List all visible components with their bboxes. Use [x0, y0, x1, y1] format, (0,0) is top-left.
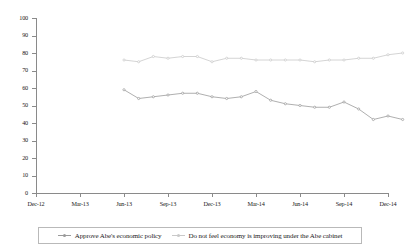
- data-point: [182, 92, 184, 94]
- data-point: [123, 89, 125, 91]
- series-2: [123, 52, 404, 63]
- y-tick-label: 100: [2, 15, 28, 21]
- series-line: [124, 90, 403, 120]
- data-point: [402, 52, 404, 54]
- data-point: [343, 101, 345, 103]
- data-point: [226, 57, 228, 59]
- x-tick-mark: [388, 193, 389, 197]
- legend-label-not-improving: Do not feel economy is improving under t…: [189, 232, 343, 240]
- data-point: [314, 61, 316, 63]
- y-tick-label: 70: [2, 67, 28, 73]
- data-point: [372, 118, 374, 120]
- data-point: [299, 104, 301, 106]
- x-tick-label: Dec-12: [14, 200, 58, 207]
- series-1: [123, 89, 404, 121]
- data-point: [182, 55, 184, 57]
- legend-item-not-improving: Do not feel economy is improving under t…: [172, 232, 343, 240]
- data-point: [270, 59, 272, 61]
- data-point: [240, 96, 242, 98]
- chart-legend: Approve Abe's economic policy Do not fee…: [38, 227, 362, 244]
- data-point: [226, 97, 228, 99]
- data-point: [138, 61, 140, 63]
- data-point: [240, 57, 242, 59]
- data-point: [255, 59, 257, 61]
- x-tick-label: Sep-14: [322, 200, 366, 207]
- y-tick-label: 50: [2, 102, 28, 108]
- x-tick-label: Dec-14: [366, 200, 409, 207]
- data-point: [284, 103, 286, 105]
- data-point: [152, 55, 154, 57]
- legend-swatch-not-improving: [172, 235, 185, 236]
- legend-swatch-approve: [58, 235, 71, 236]
- y-tick-label: 0: [2, 190, 28, 196]
- y-tick-label: 10: [2, 172, 28, 178]
- data-point: [328, 106, 330, 108]
- x-tick-label: Mar-13: [58, 200, 102, 207]
- data-point: [299, 59, 301, 61]
- data-point: [402, 118, 404, 120]
- data-point: [270, 99, 272, 101]
- data-point: [211, 96, 213, 98]
- data-point: [167, 57, 169, 59]
- y-tick-label: 40: [2, 120, 28, 126]
- y-tick-label: 80: [2, 50, 28, 56]
- x-tick-label: Mar-14: [234, 200, 278, 207]
- data-point: [314, 106, 316, 108]
- data-point: [167, 94, 169, 96]
- data-point: [328, 59, 330, 61]
- x-tick-label: Jun-14: [278, 200, 322, 207]
- data-point: [358, 57, 360, 59]
- y-tick-label: 30: [2, 137, 28, 143]
- x-tick-label: Jun-13: [102, 200, 146, 207]
- x-tick-label: Sep-13: [146, 200, 190, 207]
- data-point: [255, 90, 257, 92]
- data-point: [123, 59, 125, 61]
- data-point: [358, 108, 360, 110]
- y-tick-label: 90: [2, 32, 28, 38]
- y-tick-label: 20: [2, 155, 28, 161]
- data-point: [387, 54, 389, 56]
- series-line: [124, 53, 403, 62]
- data-point: [138, 97, 140, 99]
- data-point: [387, 115, 389, 117]
- data-point: [152, 96, 154, 98]
- legend-item-approve: Approve Abe's economic policy: [58, 232, 162, 240]
- y-tick-label: 60: [2, 85, 28, 91]
- legend-label-approve: Approve Abe's economic policy: [75, 232, 162, 240]
- series-plot: [36, 18, 388, 194]
- x-tick-label: Dec-13: [190, 200, 234, 207]
- data-point: [284, 59, 286, 61]
- data-point: [372, 57, 374, 59]
- data-point: [211, 61, 213, 63]
- data-point: [343, 59, 345, 61]
- data-point: [196, 55, 198, 57]
- data-point: [196, 92, 198, 94]
